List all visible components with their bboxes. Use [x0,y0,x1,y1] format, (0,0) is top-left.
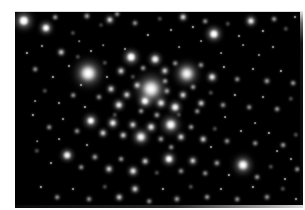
star-point [137,133,144,140]
star-point [282,188,284,190]
star-point [170,29,172,31]
star-point [284,178,286,180]
star-point [106,76,108,78]
star-point [280,70,282,72]
star-point [34,100,36,102]
sky-field [15,11,303,208]
star-point [159,137,162,140]
star-point [210,146,212,148]
star-point [295,134,297,136]
star-point [121,133,125,137]
star-point [78,40,80,42]
star-point [192,86,195,89]
star-point [120,158,123,161]
star-point [48,126,51,129]
star-point [140,110,143,113]
star-point [100,24,102,26]
star-point [58,102,60,104]
star-point [215,161,218,164]
star-point [20,17,28,25]
star-point [132,76,134,78]
star-point [117,195,121,199]
star-point [180,170,183,173]
star-point [145,83,158,96]
star-point [82,67,94,79]
star-point [133,187,137,191]
star-point [265,79,268,82]
star-point [68,65,70,67]
star-point [44,90,46,92]
star-point [159,101,164,106]
star-point [84,106,86,108]
star-point [182,69,192,79]
star-point [172,104,178,110]
star-point [159,18,161,20]
star-point [142,98,148,104]
plate-bottom-edge [15,205,303,208]
star-point [54,16,57,19]
figure-page [0,0,305,210]
star-point [200,64,203,67]
star-point [41,45,43,47]
star-point [107,167,111,171]
star-point [252,186,254,188]
star-point [34,68,37,71]
star-point [156,172,158,174]
star-point [114,114,116,116]
star-point [108,18,112,22]
star-point [224,116,226,118]
plate-right-edge [300,11,303,208]
star-point [190,186,192,188]
star-point [119,69,123,73]
star-point [104,186,106,188]
star-point [276,150,278,152]
star-point [226,140,229,143]
star-point [88,198,91,201]
star-point [290,98,292,100]
star-point [109,87,113,91]
star-point [50,162,52,164]
star-point [200,40,202,42]
star-point [40,186,42,188]
star-point [131,169,136,174]
star-point [36,150,38,152]
star-point [181,93,185,97]
star-point [110,120,115,125]
star-point [164,80,167,83]
star-point [236,78,239,81]
star-point [152,56,158,62]
star-point [72,188,74,190]
star-point [196,110,199,113]
star-point [192,26,194,28]
star-point [272,46,274,48]
star-point [214,128,216,130]
star-point [147,34,149,36]
star-point [124,48,126,50]
star-point [292,82,295,85]
star-point [228,174,230,176]
star-point [58,138,60,140]
star-point [204,172,207,175]
star-point [256,176,259,179]
star-point [181,15,185,19]
star-point [262,96,264,98]
star-point [223,66,225,68]
star-point [52,76,54,78]
star-point [167,121,175,129]
star-point [128,54,135,61]
star-point [296,168,299,171]
star-point [174,62,177,65]
star-point [162,188,164,190]
star-point [77,56,79,58]
star-point [86,144,88,146]
star-point [90,50,92,52]
star-point [285,28,287,30]
star-point [36,140,38,142]
star-point [227,23,229,25]
star-point [104,62,106,64]
star-point [102,44,104,46]
star-point [282,144,285,147]
star-point [178,114,180,116]
star-point [254,122,256,124]
star-point [32,114,34,116]
